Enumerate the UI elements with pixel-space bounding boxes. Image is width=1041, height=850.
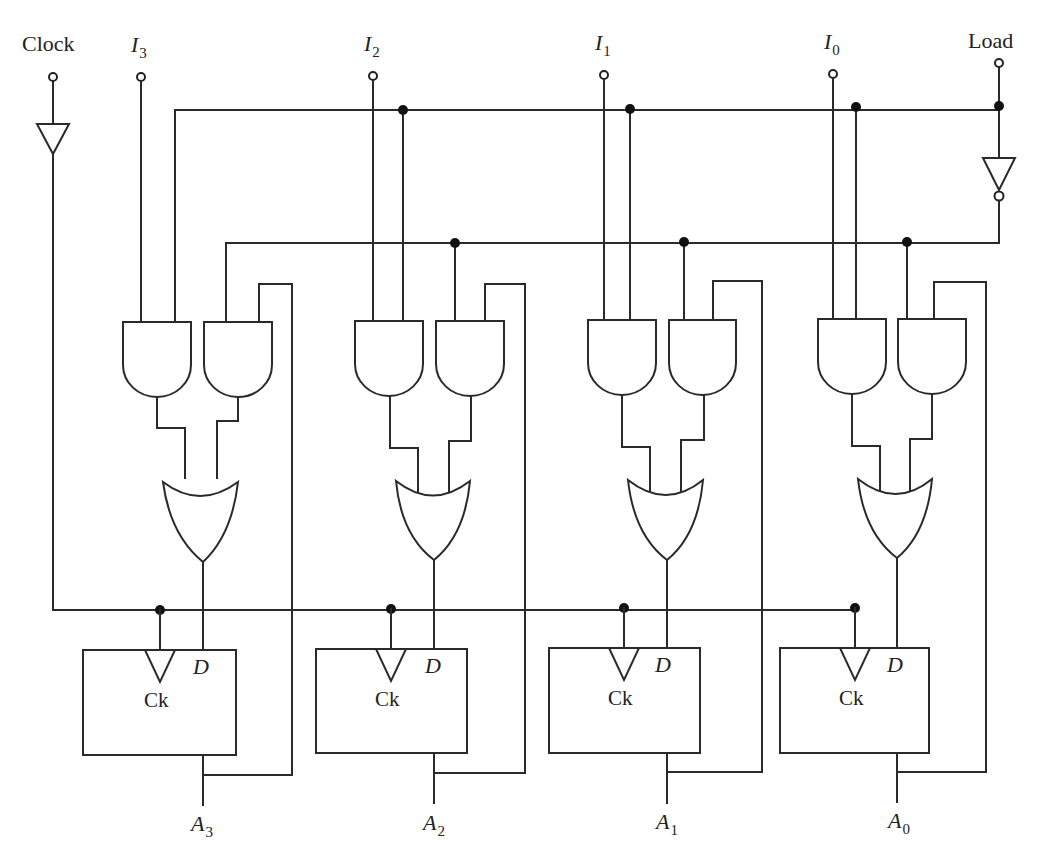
or-gate-icon	[396, 481, 470, 560]
input-label-i3: I3	[131, 34, 147, 56]
bit-slice-2	[316, 72, 525, 803]
and-gate-icon	[355, 321, 423, 396]
i3-terminal-icon	[137, 73, 145, 81]
ff3-ck-label: Ck	[144, 690, 169, 711]
output-label-a3: A3	[191, 813, 213, 835]
circuit-schematic	[0, 0, 1041, 850]
or-gate-icon	[163, 482, 238, 562]
clock-buffer-icon	[37, 124, 69, 154]
i0-terminal-icon	[829, 70, 837, 78]
and-gate-icon	[436, 321, 504, 396]
and-gate-icon	[669, 320, 736, 395]
and-gate-icon	[204, 322, 272, 397]
ff2-d-label: D	[425, 655, 441, 677]
load-terminal-icon	[995, 59, 1003, 67]
load-inverter-icon	[983, 158, 1015, 190]
and-gate-icon	[123, 322, 191, 397]
ff1-d-label: D	[655, 654, 671, 676]
clock-input	[37, 73, 69, 610]
input-label-i0: I0	[824, 31, 840, 53]
input-label-i1: I1	[595, 32, 611, 54]
i2-terminal-icon	[369, 72, 377, 80]
load-input	[983, 59, 1015, 243]
clock-label: Clock	[22, 33, 75, 55]
and-gate-icon	[588, 320, 656, 395]
ff3-d-label: D	[193, 656, 209, 678]
ff2-ck-label: Ck	[375, 689, 400, 710]
ff0-d-label: D	[887, 654, 903, 676]
bit-slice-0	[780, 70, 986, 802]
bit-slice-1	[549, 71, 762, 803]
register-diagram: Clock Load I3 I2 I1 I0 D Ck D Ck D Ck D …	[0, 0, 1041, 850]
bit-slice-3	[83, 73, 292, 805]
output-label-a2: A2	[423, 812, 445, 834]
i1-terminal-icon	[600, 71, 608, 79]
output-label-a0: A0	[888, 810, 910, 832]
or-gate-icon	[628, 480, 703, 560]
ff0-ck-label: Ck	[839, 688, 864, 709]
output-label-a1: A1	[656, 811, 678, 833]
and-gate-icon	[898, 319, 966, 394]
input-label-i2: I2	[364, 33, 380, 55]
or-gate-icon	[858, 479, 932, 558]
clock-terminal-icon	[49, 73, 57, 81]
and-gate-icon	[818, 319, 886, 394]
ff1-ck-label: Ck	[608, 688, 633, 709]
load-label: Load	[968, 30, 1013, 52]
